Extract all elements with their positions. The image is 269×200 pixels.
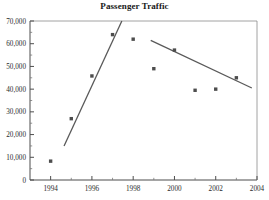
x-axis-tick-label: 2000 xyxy=(167,185,182,193)
y-axis-tick-label: 70,000 xyxy=(6,18,26,26)
y-axis-tick-label: 30,000 xyxy=(6,108,26,116)
chart-page: Passenger Traffic 010,00020,00030,00040,… xyxy=(0,0,269,200)
data-point-marker xyxy=(49,159,52,162)
y-axis-tick-label: 40,000 xyxy=(6,86,26,94)
data-point-marker xyxy=(152,67,155,70)
x-axis-tick-label: 2002 xyxy=(209,185,224,193)
axis-frame xyxy=(30,21,257,180)
y-axis-tick-label: 20,000 xyxy=(6,131,26,139)
data-markers-group xyxy=(49,33,238,163)
x-axis-tick-label: 2004 xyxy=(250,185,265,193)
y-axis-tick-label: 50,000 xyxy=(6,63,26,71)
trend-lines-group xyxy=(64,21,252,146)
y-axis-tick-labels: 010,00020,00030,00040,00050,00060,00070,… xyxy=(6,18,26,185)
x-axis-tick-labels: 199419961998200020022004 xyxy=(43,185,264,193)
data-point-marker xyxy=(214,87,217,90)
declining-trend-line xyxy=(151,40,252,88)
data-point-marker xyxy=(111,33,114,36)
data-point-marker xyxy=(173,48,176,51)
y-axis-tick-label: 0 xyxy=(22,177,26,185)
data-point-marker xyxy=(90,74,93,77)
data-point-marker xyxy=(193,89,196,92)
y-axis-tick-label: 60,000 xyxy=(6,40,26,48)
data-point-marker xyxy=(70,117,73,120)
data-point-marker xyxy=(131,37,134,40)
y-axis-ticks xyxy=(30,21,34,180)
x-axis-tick-label: 1998 xyxy=(126,185,141,193)
rising-trend-line xyxy=(64,21,122,146)
y-axis-tick-label: 10,000 xyxy=(6,154,26,162)
passenger-traffic-chart: 010,00020,00030,00040,00050,00060,00070,… xyxy=(0,0,269,200)
x-axis-tick-label: 1996 xyxy=(85,185,100,193)
data-point-marker xyxy=(235,76,238,79)
x-axis-ticks xyxy=(51,176,257,180)
x-axis-tick-label: 1994 xyxy=(43,185,58,193)
